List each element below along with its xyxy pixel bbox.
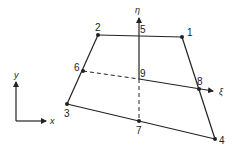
node-3 [65,102,69,106]
node-label-3: 3 [64,108,70,119]
node-1 [180,35,184,39]
element-diagram: y x η ξ [0,0,238,153]
node-labels: 1 2 3 4 5 6 7 8 9 [64,22,225,146]
natural-axes: η ξ [83,5,224,121]
element-boundary [67,35,215,139]
node-label-9: 9 [140,68,146,79]
node-label-5: 5 [140,24,146,35]
node-4 [213,137,217,141]
xi-axis-dashed [83,71,139,79]
node-label-4: 4 [219,135,225,146]
node-6 [81,69,85,73]
global-axes: y x [13,70,55,126]
node-label-2: 2 [95,22,101,33]
edge-2-1 [98,35,182,37]
y-axis-label: y [13,70,19,80]
node-label-6: 6 [74,62,80,73]
node-2 [96,33,100,37]
node-8 [197,87,201,91]
node-label-7: 7 [136,125,142,136]
node-label-1: 1 [187,27,193,38]
xi-axis-label: ξ [219,87,224,97]
node-7 [137,119,141,123]
node-label-8: 8 [197,76,203,87]
eta-axis-label: η [135,5,140,15]
x-axis-label: x [49,116,55,126]
